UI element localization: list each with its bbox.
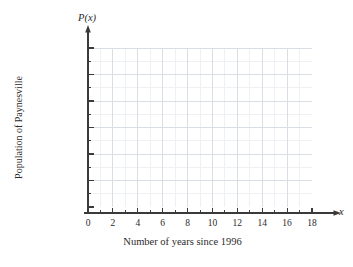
x-axis-name: x (339, 206, 344, 218)
x-axis-title: Number of years since 1996 (0, 236, 353, 248)
x-tick-label: 18 (307, 218, 317, 228)
x-tick-label: 10 (208, 218, 218, 228)
x-tick-label: 12 (233, 218, 243, 228)
y-axis-name: P(x) (78, 12, 96, 24)
chart-figure: 18,00019,00020,00021,00022,00023,00024,0… (0, 0, 353, 267)
x-tick-label: 16 (282, 218, 292, 228)
x-tick-label: 4 (135, 218, 140, 228)
x-tick-label: 14 (257, 218, 267, 228)
x-tick-label: 6 (160, 218, 165, 228)
x-tick-label: 2 (111, 218, 116, 228)
x-tick-label-group: 024681012141618 (0, 218, 353, 232)
x-tick-label: 0 (86, 218, 91, 228)
x-tick-label: 8 (185, 218, 190, 228)
y-axis-title: Population of Paynesville (13, 48, 24, 208)
